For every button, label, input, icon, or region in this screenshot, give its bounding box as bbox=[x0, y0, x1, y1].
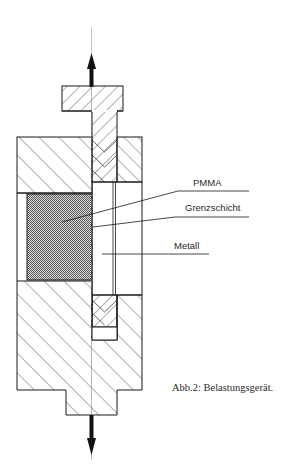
metall-label: Metall bbox=[174, 240, 199, 251]
pull-rod-head bbox=[62, 86, 123, 111]
figure-caption: Abb.2: Belastungsgerät. bbox=[172, 382, 273, 393]
top-load-arrow-icon bbox=[87, 53, 96, 87]
grenzschicht-label: Grenzschicht bbox=[185, 202, 241, 213]
housing-upper-block bbox=[17, 137, 142, 193]
pmma-label: PMMA bbox=[193, 177, 222, 188]
housing-lower-block bbox=[17, 281, 142, 415]
loading-device-diagram: PMMA Grenzschicht Metall Abb.2: Belastun… bbox=[0, 0, 300, 475]
grenzschicht-leader-line bbox=[93, 217, 249, 227]
pmma-specimen bbox=[27, 194, 92, 280]
pull-rod-stem bbox=[92, 111, 117, 182]
bottom-load-arrow-icon bbox=[87, 415, 96, 455]
